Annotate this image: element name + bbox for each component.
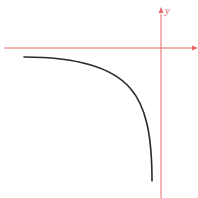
- y-axis-arrow-icon: [159, 7, 164, 13]
- x-axis-arrow-icon: [192, 46, 198, 51]
- function-curve: [24, 57, 152, 181]
- graph-figure: y: [0, 0, 198, 198]
- y-axis-label: y: [164, 4, 170, 16]
- graph-canvas: y: [0, 0, 198, 198]
